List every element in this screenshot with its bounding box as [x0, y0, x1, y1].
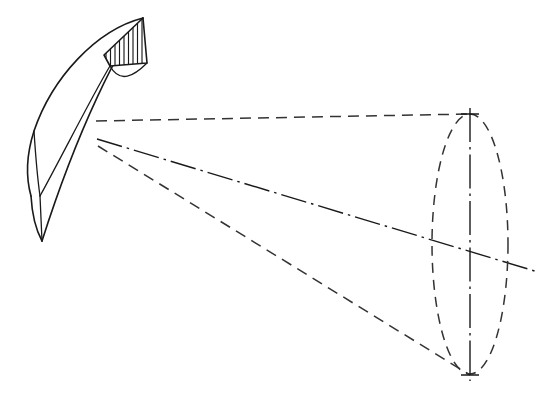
cone-projection-group: [96, 108, 538, 381]
cone-axis-centerline: [97, 139, 538, 272]
engineering-drawing-figure: [0, 0, 543, 394]
technical-diagram-canvas: [0, 0, 543, 394]
upper-generator-dashed-line: [96, 114, 470, 121]
lower-generator-dashed-line: [98, 146, 470, 375]
